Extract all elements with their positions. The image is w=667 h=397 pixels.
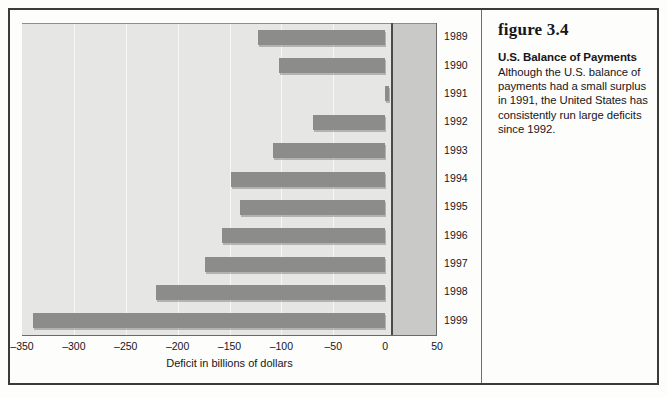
year-label: 1994 bbox=[444, 172, 468, 184]
bar bbox=[385, 86, 389, 101]
bar bbox=[231, 172, 386, 187]
bar bbox=[156, 285, 385, 300]
figure-frame-top bbox=[8, 8, 659, 10]
year-label: 1999 bbox=[444, 314, 468, 326]
zero-axis-line bbox=[391, 23, 393, 335]
x-tick-label: –100 bbox=[270, 340, 293, 352]
x-tick-label: –250 bbox=[114, 340, 137, 352]
figure-number: figure 3.4 bbox=[498, 20, 648, 40]
year-label: 1990 bbox=[444, 59, 468, 71]
caption-body: Although the U.S. balance of payments ha… bbox=[498, 65, 648, 136]
year-label: 1997 bbox=[444, 257, 468, 269]
x-tick-label: –50 bbox=[324, 340, 342, 352]
bar bbox=[222, 228, 385, 243]
year-label: 1998 bbox=[444, 285, 468, 297]
figure-frame-left bbox=[8, 8, 10, 385]
axis-line-right bbox=[436, 23, 437, 336]
x-tick-label: –200 bbox=[166, 340, 189, 352]
bar bbox=[240, 200, 385, 215]
x-tick-label: –350 bbox=[10, 340, 33, 352]
bar bbox=[313, 115, 386, 130]
column-divider bbox=[481, 10, 482, 383]
bar bbox=[205, 257, 386, 272]
figure-frame-bottom bbox=[8, 383, 659, 385]
axis-line-top bbox=[22, 23, 437, 24]
bar bbox=[33, 313, 385, 328]
figure-frame-right bbox=[657, 8, 659, 385]
gridline bbox=[74, 23, 75, 335]
x-tick-label: –150 bbox=[218, 340, 241, 352]
year-label: 1992 bbox=[444, 115, 468, 127]
bar-chart bbox=[22, 23, 437, 335]
x-axis-line bbox=[22, 335, 437, 336]
caption-title: U.S. Balance of Payments bbox=[498, 51, 648, 63]
caption-column: figure 3.4 U.S. Balance of Payments Alth… bbox=[498, 20, 648, 136]
year-label: 1989 bbox=[444, 30, 468, 42]
year-label: 1993 bbox=[444, 144, 468, 156]
year-label: 1995 bbox=[444, 200, 468, 212]
x-tick-label: 50 bbox=[431, 340, 443, 352]
plot-background-positive bbox=[391, 23, 437, 335]
figure-container: 1989199019911992199319941995199619971998… bbox=[0, 0, 667, 397]
x-axis-title: Deficit in billions of dollars bbox=[22, 357, 437, 369]
x-tick-label: –300 bbox=[62, 340, 85, 352]
bar bbox=[273, 143, 385, 158]
bar bbox=[279, 58, 385, 73]
year-label: 1996 bbox=[444, 229, 468, 241]
year-label: 1991 bbox=[444, 87, 468, 99]
bar bbox=[258, 30, 386, 45]
x-tick-label: 0 bbox=[382, 340, 388, 352]
gridline bbox=[126, 23, 127, 335]
